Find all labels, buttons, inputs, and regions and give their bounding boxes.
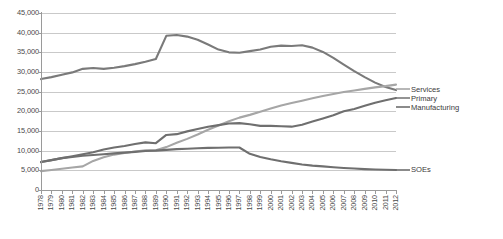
y-axis-tick-label: 0 — [1, 186, 39, 193]
y-axis-tick-label: 35,000 — [1, 48, 39, 55]
x-axis-tick-label: 1988 — [141, 195, 148, 211]
x-axis-tick-mark — [41, 190, 42, 194]
x-axis-tick-mark — [166, 190, 167, 194]
x-axis-tick-mark — [239, 190, 240, 194]
x-axis-tick-label: 1982 — [79, 195, 86, 211]
legend-label-services: Services — [411, 86, 440, 94]
x-axis-tick-mark — [365, 190, 366, 194]
x-axis-tick-mark — [312, 190, 313, 194]
y-axis: 05,00010,00015,00020,00025,00030,00035,0… — [0, 0, 39, 239]
x-axis-tick-label: 1978 — [37, 195, 44, 211]
legend-connector-primary — [396, 97, 412, 99]
x-axis-tick-label: 1981 — [68, 195, 75, 211]
x-axis-tick-label: 1979 — [47, 195, 54, 211]
legend-label-soes: SOEs — [411, 166, 431, 174]
x-axis-tick-mark — [271, 190, 272, 194]
x-axis-tick-label: 1991 — [173, 195, 180, 211]
series-line-primary — [41, 35, 396, 90]
x-axis-tick-label: 2001 — [277, 195, 284, 211]
x-axis-tick-mark — [302, 190, 303, 194]
x-axis-tick-label: 2009 — [361, 195, 368, 211]
x-axis-tick-mark — [93, 190, 94, 194]
legend-label-primary: Primary — [411, 95, 437, 103]
x-axis-tick-mark — [281, 190, 282, 194]
x-axis-tick-label: 2008 — [350, 195, 357, 211]
x-axis-tick-label: 1999 — [256, 195, 263, 211]
x-axis-tick-label: 2011 — [382, 195, 389, 210]
x-axis-tick-mark — [62, 190, 63, 194]
x-axis-tick-mark — [208, 190, 209, 194]
x-axis: 1978197919801981198219831984198519861987… — [41, 190, 397, 239]
x-axis-tick-label: 1990 — [162, 195, 169, 211]
x-axis-tick-mark — [354, 190, 355, 194]
x-axis-tick-label: 2010 — [371, 195, 378, 211]
x-axis-tick-label: 1983 — [89, 195, 96, 211]
y-axis-tick-label: 40,000 — [1, 29, 39, 36]
x-axis-tick-label: 1987 — [131, 195, 138, 211]
x-axis-tick-mark — [386, 190, 387, 194]
x-axis-tick-mark — [292, 190, 293, 194]
x-axis-tick-mark — [250, 190, 251, 194]
x-axis-tick-mark — [156, 190, 157, 194]
x-axis-tick-mark — [198, 190, 199, 194]
series-line-manufacturing — [41, 98, 396, 162]
x-axis-tick-label: 1998 — [246, 195, 253, 211]
x-axis-tick-label: 1995 — [215, 195, 222, 211]
y-axis-tick-label: 25,000 — [1, 88, 39, 95]
x-axis-tick-mark — [323, 190, 324, 194]
x-axis-tick-mark — [125, 190, 126, 194]
x-axis-tick-label: 1993 — [194, 195, 201, 211]
x-axis-tick-label: 2005 — [319, 195, 326, 211]
x-axis-tick-mark — [83, 190, 84, 194]
legend-connector-soes — [396, 169, 412, 171]
legend-connector-manufacturing — [396, 106, 412, 108]
x-axis-tick-mark — [375, 190, 376, 194]
x-axis-tick-mark — [333, 190, 334, 194]
x-axis-tick-label: 1984 — [100, 195, 107, 211]
x-axis-tick-mark — [260, 190, 261, 194]
x-axis-tick-mark — [396, 190, 397, 194]
series-line-services — [41, 85, 396, 172]
x-axis-tick-mark — [344, 190, 345, 194]
y-axis-tick-label: 45,000 — [1, 9, 39, 16]
x-axis-tick-mark — [51, 190, 52, 194]
x-axis-tick-label: 2000 — [267, 195, 274, 211]
x-axis-tick-mark — [177, 190, 178, 194]
line-chart: 05,00010,00015,00020,00025,00030,00035,0… — [0, 0, 503, 239]
x-axis-tick-label: 2003 — [298, 195, 305, 211]
x-axis-tick-mark — [135, 190, 136, 194]
y-axis-tick-label: 10,000 — [1, 147, 39, 154]
x-axis-tick-mark — [114, 190, 115, 194]
x-axis-tick-mark — [229, 190, 230, 194]
x-axis-tick-label: 2004 — [308, 195, 315, 211]
series-lines — [41, 13, 396, 190]
x-axis-tick-label: 1996 — [225, 195, 232, 211]
y-axis-tick-label: 5,000 — [1, 166, 39, 173]
x-axis-tick-mark — [72, 190, 73, 194]
legend-label-manufacturing: Manufacturing — [411, 104, 459, 112]
y-axis-tick-label: 30,000 — [1, 68, 39, 75]
x-axis-tick-label: 1994 — [204, 195, 211, 211]
x-axis-tick-mark — [187, 190, 188, 194]
x-axis-tick-label: 2012 — [392, 195, 399, 211]
x-axis-tick-label: 1992 — [183, 195, 190, 211]
x-axis-tick-label: 1980 — [58, 195, 65, 211]
x-axis-tick-label: 2002 — [288, 195, 295, 211]
legend-connector-services — [396, 88, 412, 90]
x-axis-tick-mark — [104, 190, 105, 194]
x-axis-tick-mark — [219, 190, 220, 194]
y-axis-line — [41, 12, 42, 191]
x-axis-tick-label: 1997 — [235, 195, 242, 211]
y-axis-tick-label: 20,000 — [1, 107, 39, 114]
x-axis-tick-label: 1989 — [152, 195, 159, 211]
x-axis-tick-label: 1986 — [121, 195, 128, 211]
x-axis-tick-label: 1985 — [110, 195, 117, 211]
x-axis-tick-mark — [145, 190, 146, 194]
x-axis-tick-label: 2007 — [340, 195, 347, 211]
y-axis-tick-label: 15,000 — [1, 127, 39, 134]
x-axis-tick-label: 2006 — [329, 195, 336, 211]
plot-area — [41, 13, 396, 190]
